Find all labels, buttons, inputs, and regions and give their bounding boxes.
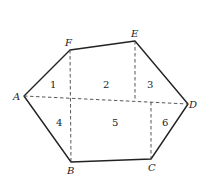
region-label-1: 1: [50, 79, 56, 90]
vertex-label-C: C: [148, 162, 156, 173]
region-label-3: 3: [147, 79, 153, 90]
hexagon-diagram: A F E D C B 1 2 3 4 5 6: [0, 0, 207, 186]
vertex-label-B: B: [66, 165, 74, 176]
dashed-line-AD: [24, 96, 188, 104]
vertex-label-D: D: [188, 99, 197, 110]
vertex-label-A: A: [12, 91, 20, 102]
vertex-label-F: F: [64, 37, 73, 48]
region-label-5: 5: [112, 117, 118, 128]
dashed-line-F-to-B: [70, 50, 71, 162]
region-label-2: 2: [103, 79, 109, 90]
vertex-label-E: E: [130, 28, 139, 39]
region-label-4: 4: [56, 117, 62, 128]
hexagon-outline: [24, 41, 188, 162]
region-label-6: 6: [162, 117, 168, 128]
